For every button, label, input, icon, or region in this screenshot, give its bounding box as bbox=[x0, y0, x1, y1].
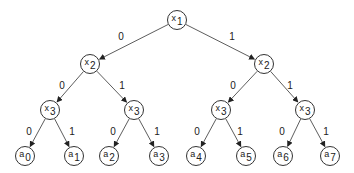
node-subscript: 2 bbox=[109, 152, 115, 163]
node-subscript: 4 bbox=[196, 152, 202, 163]
node-subscript: 3 bbox=[221, 106, 227, 117]
leaf-node: a5 bbox=[236, 146, 256, 166]
variable-node: x3 bbox=[40, 100, 60, 120]
node-variable: x bbox=[171, 13, 176, 23]
node-subscript: 6 bbox=[283, 152, 289, 163]
node-subscript: 2 bbox=[264, 60, 270, 71]
node-label: a4 bbox=[187, 147, 205, 165]
leaf-node: a0 bbox=[15, 146, 35, 166]
node-variable: a bbox=[277, 149, 282, 159]
edge-label: 1 bbox=[287, 80, 293, 91]
edge-label: 1 bbox=[119, 80, 125, 91]
edge-label: 0 bbox=[110, 126, 116, 137]
edge-n5-l3 bbox=[139, 119, 154, 147]
decision-tree-diagram: 01010101010101 x1x2x2x3x3x3x3a0a1a2a3a4a… bbox=[0, 0, 354, 173]
edge-label: 0 bbox=[59, 80, 65, 91]
leaf-node: a1 bbox=[64, 146, 84, 166]
node-subscript: 3 bbox=[50, 106, 56, 117]
edge-n4-l1 bbox=[55, 119, 69, 146]
node-label: a1 bbox=[65, 147, 83, 165]
edge-n5-l2 bbox=[114, 119, 129, 147]
node-label: a5 bbox=[237, 147, 255, 165]
variable-node: x2 bbox=[80, 54, 100, 74]
leaf-node: a6 bbox=[273, 146, 293, 166]
leaf-node: a4 bbox=[186, 146, 206, 166]
node-label: a2 bbox=[100, 147, 118, 165]
node-label: a6 bbox=[274, 147, 292, 165]
node-variable: a bbox=[68, 149, 73, 159]
node-variable: x bbox=[258, 57, 263, 67]
node-subscript: 2 bbox=[90, 60, 96, 71]
leaf-node: a2 bbox=[99, 146, 119, 166]
node-label: x3 bbox=[125, 101, 143, 119]
edge-n6-l4 bbox=[201, 119, 216, 147]
edge-label: 0 bbox=[194, 126, 200, 137]
variable-node: x2 bbox=[254, 54, 274, 74]
node-label: x3 bbox=[296, 101, 314, 119]
node-label: a7 bbox=[321, 147, 339, 165]
node-variable: a bbox=[153, 149, 158, 159]
node-label: a0 bbox=[16, 147, 34, 165]
edge-label: 1 bbox=[323, 126, 329, 137]
edge-label: 1 bbox=[237, 126, 243, 137]
node-subscript: 0 bbox=[25, 152, 31, 163]
edge-label: 1 bbox=[69, 126, 75, 137]
node-subscript: 7 bbox=[330, 152, 336, 163]
edge-label: 0 bbox=[279, 126, 285, 137]
node-subscript: 1 bbox=[74, 152, 80, 163]
edge-n4-l0 bbox=[30, 119, 45, 147]
variable-node: x3 bbox=[124, 100, 144, 120]
node-label: x1 bbox=[168, 11, 186, 29]
node-label: x2 bbox=[255, 55, 273, 73]
edge-label: 0 bbox=[118, 31, 124, 42]
node-subscript: 3 bbox=[305, 106, 311, 117]
node-variable: a bbox=[324, 149, 329, 159]
node-variable: x bbox=[84, 57, 89, 67]
edge-n7-l6 bbox=[288, 119, 301, 146]
node-subscript: 5 bbox=[246, 152, 252, 163]
variable-node: x3 bbox=[211, 100, 231, 120]
node-variable: a bbox=[19, 149, 24, 159]
node-label: a3 bbox=[150, 147, 168, 165]
leaf-node: a3 bbox=[149, 146, 169, 166]
node-label: x3 bbox=[41, 101, 59, 119]
node-label: x3 bbox=[212, 101, 230, 119]
variable-node: x1 bbox=[167, 10, 187, 30]
edge-n1-n2 bbox=[100, 25, 168, 60]
node-variable: x bbox=[215, 103, 220, 113]
node-variable: a bbox=[103, 149, 108, 159]
edge-label: 0 bbox=[26, 126, 32, 137]
edge-label: 1 bbox=[229, 31, 235, 42]
node-subscript: 3 bbox=[159, 152, 165, 163]
node-variable: x bbox=[44, 103, 49, 113]
edge-label: 0 bbox=[230, 80, 236, 91]
leaf-node: a7 bbox=[320, 146, 340, 166]
edge-n1-n3 bbox=[186, 25, 254, 60]
variable-node: x3 bbox=[295, 100, 315, 120]
edge-label: 1 bbox=[154, 126, 160, 137]
node-variable: x bbox=[128, 103, 133, 113]
edge-n3-n7 bbox=[271, 71, 298, 101]
node-label: x2 bbox=[81, 55, 99, 73]
node-subscript: 3 bbox=[134, 106, 140, 117]
node-variable: x bbox=[299, 103, 304, 113]
node-subscript: 1 bbox=[177, 16, 183, 27]
node-variable: a bbox=[190, 149, 195, 159]
node-variable: a bbox=[240, 149, 245, 159]
